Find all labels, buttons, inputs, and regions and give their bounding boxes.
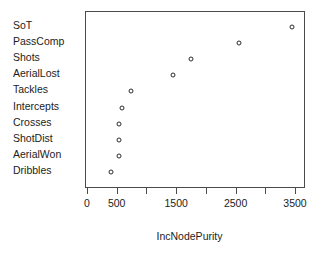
category-label-sot: SoT	[13, 20, 32, 31]
x-axis-tick-labels: 0500150025003500	[85, 197, 315, 211]
x-tick-3000	[265, 188, 266, 194]
category-label-shotdist: ShotDist	[13, 133, 53, 144]
x-tick-1000	[146, 188, 147, 194]
plot-panel	[85, 11, 305, 188]
data-point-tackles	[129, 89, 134, 94]
x-tick-500	[117, 188, 118, 194]
data-point-crosses	[117, 121, 122, 126]
x-axis-ticks	[85, 188, 305, 196]
data-point-intercepts	[120, 105, 125, 110]
category-label-aerialwon: AerialWon	[13, 149, 61, 160]
category-axis-labels: SoTPassCompShotsAerialLostTacklesInterce…	[13, 11, 83, 188]
category-label-aeriallost: AerialLost	[13, 68, 60, 79]
x-tick-label-0: 0	[84, 197, 90, 209]
x-axis-title-text: IncNodePurity	[97, 230, 223, 242]
data-point-aerialwon	[116, 154, 121, 159]
x-axis-title: IncNodePurity	[0, 230, 319, 242]
category-label-intercepts: Intercepts	[13, 101, 59, 112]
data-point-passcomp	[236, 40, 241, 45]
category-label-passcomp: PassComp	[13, 36, 64, 47]
category-label-crosses: Crosses	[13, 117, 52, 128]
data-point-shotdist	[116, 137, 121, 142]
x-tick-2500	[236, 188, 237, 194]
x-tick-label-2500: 2500	[224, 197, 247, 209]
data-point-aeriallost	[170, 73, 175, 78]
x-tick-1500	[176, 188, 177, 194]
x-tick-label-1500: 1500	[164, 197, 187, 209]
x-tick-3500	[295, 188, 296, 194]
x-tick-2000	[206, 188, 207, 194]
category-label-dribbles: Dribbles	[13, 165, 52, 176]
category-label-tackles: Tackles	[13, 84, 48, 95]
data-point-shots	[189, 56, 194, 61]
x-tick-label-3500: 3500	[283, 197, 306, 209]
variable-importance-plot: SoTPassCompShotsAerialLostTacklesInterce…	[0, 0, 319, 262]
data-point-sot	[290, 24, 295, 29]
x-tick-0	[87, 188, 88, 194]
data-point-dribbles	[108, 170, 113, 175]
category-label-shots: Shots	[13, 52, 40, 63]
x-tick-label-500: 500	[108, 197, 126, 209]
